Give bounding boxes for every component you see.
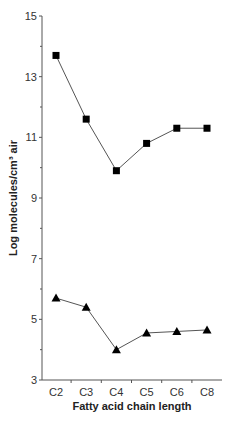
triangle-marker: [52, 294, 61, 302]
triangle-marker: [203, 325, 212, 333]
y-tick-label: 13: [25, 71, 37, 83]
x-tick-label: C3: [79, 386, 93, 398]
square-marker: [143, 140, 150, 147]
series-group: [52, 52, 212, 353]
series-line-squares: [56, 55, 207, 170]
square-marker: [53, 52, 60, 59]
series-line-triangles: [56, 298, 207, 350]
x-axis-title: Fatty acid chain length: [72, 400, 191, 412]
y-axis-title: Log molecules/cm³ air: [7, 139, 19, 256]
triangle-marker: [112, 345, 121, 353]
square-marker: [113, 167, 120, 174]
y-tick-label: 9: [31, 192, 37, 204]
x-tick-label: C6: [170, 386, 184, 398]
x-tick-label: C2: [49, 386, 63, 398]
x-tick-label: C4: [109, 386, 123, 398]
y-tick-label: 3: [31, 374, 37, 386]
chart: 3579111315C2C3C4C5C6C8 Fatty acid chain …: [0, 0, 235, 424]
axes: 3579111315C2C3C4C5C6C8: [25, 10, 222, 398]
square-marker: [83, 116, 90, 123]
square-marker: [173, 125, 180, 132]
square-marker: [204, 125, 211, 132]
x-tick-label: C8: [200, 386, 214, 398]
x-tick-label: C5: [140, 386, 154, 398]
y-tick-label: 7: [31, 253, 37, 265]
y-tick-label: 15: [25, 10, 37, 22]
y-tick-label: 5: [31, 313, 37, 325]
y-tick-label: 11: [26, 131, 37, 143]
